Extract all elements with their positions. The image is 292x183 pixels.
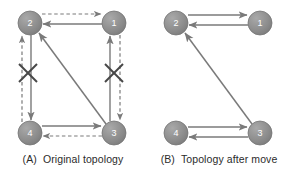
edge-3-to-2-diagonal [39, 33, 106, 124]
panel-original-topology: 2 1 4 3 (A)Original topology [0, 0, 146, 183]
panel-b-caption: (B)Topology after move [146, 153, 292, 165]
node-3-label: 3 [257, 128, 262, 138]
edge-3-to-2-diagonal [185, 33, 252, 124]
panel-b-caption-tag: (B) [161, 153, 175, 165]
node-2: 2 [18, 11, 42, 35]
node-3: 3 [102, 121, 126, 145]
panel-b-edges [185, 15, 252, 137]
panel-b-caption-text: Topology after move [181, 153, 277, 165]
figure-root: 2 1 4 3 (A)Original topology [0, 0, 292, 183]
node-1-label: 1 [257, 18, 262, 28]
node-4: 4 [18, 121, 42, 145]
node-3: 3 [248, 121, 272, 145]
panel-a-diagram: 2 1 4 3 [0, 0, 146, 150]
node-4-label: 4 [27, 128, 32, 138]
node-4: 4 [164, 121, 188, 145]
node-2-label: 2 [27, 18, 32, 28]
node-4-label: 4 [173, 128, 178, 138]
panel-a-caption: (A)Original topology [0, 153, 146, 165]
panel-b-diagram: 2 1 4 3 [146, 0, 292, 150]
node-2: 2 [164, 11, 188, 35]
node-3-label: 3 [111, 128, 116, 138]
panel-a-caption-text: Original topology [43, 153, 124, 165]
node-1: 1 [102, 11, 126, 35]
node-1: 1 [248, 11, 272, 35]
panel-topology-after-move: 2 1 4 3 (B)Topology after move [146, 0, 292, 183]
node-1-label: 1 [111, 18, 116, 28]
node-2-label: 2 [173, 18, 178, 28]
panel-a-broken-links [19, 64, 123, 82]
panel-a-caption-tag: (A) [23, 153, 37, 165]
